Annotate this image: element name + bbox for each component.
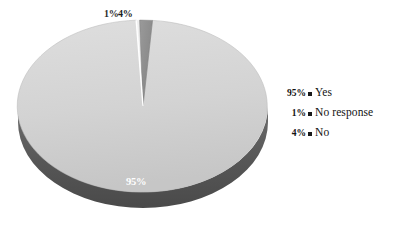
legend-percent-no: 4% (284, 128, 306, 138)
legend-percent-yes: 95% (284, 88, 306, 98)
pie-graphic (0, 0, 285, 231)
pie-data-label-no-response: 1% (104, 8, 119, 19)
chart-legend: 95% Yes 1% No response 4% No (284, 86, 394, 146)
legend-item-yes: 95% Yes (284, 86, 394, 106)
pie-data-label-yes: 95% (126, 176, 146, 187)
legend-label-yes: Yes (315, 86, 332, 98)
legend-marker-icon (308, 112, 312, 116)
legend-marker-icon (308, 132, 312, 136)
legend-label-no: No (315, 126, 329, 138)
legend-marker-icon (308, 92, 312, 96)
legend-label-no-response: No response (315, 106, 373, 118)
legend-percent-no-response: 1% (284, 108, 306, 118)
legend-item-no-response: 1% No response (284, 106, 394, 126)
legend-item-no: 4% No (284, 126, 394, 146)
pie-chart: 95% 1% 4% 95% Yes 1% No response 4% No (0, 0, 397, 231)
pie-plot-area: 95% 1% 4% (0, 0, 285, 231)
pie-data-label-no: 4% (118, 8, 133, 19)
